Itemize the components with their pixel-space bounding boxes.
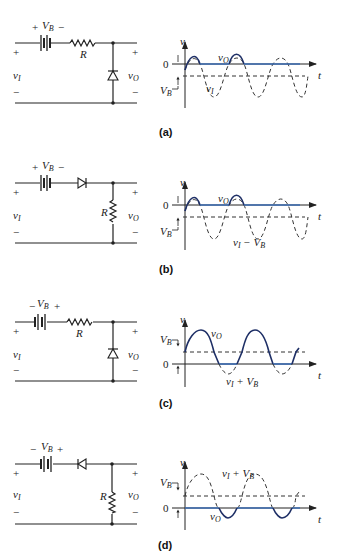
output-plus: +	[132, 46, 138, 58]
resistor-icon	[109, 492, 115, 513]
input-minus: −	[13, 86, 19, 98]
resistor-label: R	[75, 327, 83, 339]
output-curve-label: vO	[211, 327, 222, 341]
input-plus: +	[13, 325, 19, 337]
battery-label: VB	[42, 159, 54, 173]
battery-polarity-right: +	[54, 300, 60, 312]
vb-label: VB	[160, 333, 172, 347]
input-plus: +	[13, 467, 19, 479]
input-label: vI	[13, 209, 21, 223]
x-axis-label: t	[318, 210, 322, 222]
waveform-c: v t 0 VB vO vI + VB	[160, 313, 322, 389]
circuit-c: − VB + R + vI − + vO −	[13, 297, 139, 383]
output-label: vO	[128, 69, 139, 83]
output-minus: −	[132, 86, 138, 98]
output-curve-label: vO	[218, 192, 229, 206]
caption-a: (a)	[159, 126, 173, 138]
vb-label: VB	[160, 476, 172, 490]
output-curve-label: vO	[210, 510, 221, 524]
y-axis-label: v	[180, 35, 185, 47]
x-axis-label: t	[318, 513, 322, 525]
caption-b: (b)	[159, 263, 173, 275]
caption-c: (c)	[159, 397, 173, 409]
battery-icon	[41, 35, 50, 51]
circuit-a: + VB − R + vI − + vO −	[13, 19, 139, 105]
battery-polarity-right: +	[57, 443, 63, 455]
input-curve-label: vI	[206, 82, 214, 96]
output-label: vO	[128, 488, 139, 502]
vb-label: VB	[160, 84, 172, 98]
output-minus: −	[132, 506, 138, 518]
battery-icon	[35, 314, 45, 330]
resistor-icon	[70, 40, 95, 46]
battery-polarity-left: +	[32, 161, 38, 173]
x-axis-label: t	[318, 69, 322, 81]
input-label: vI	[13, 488, 21, 502]
battery-polarity-left: +	[32, 21, 38, 33]
circuit-d: − VB + R + vI − + vO −	[13, 440, 139, 526]
battery-polarity-left: −	[29, 300, 35, 312]
battery-icon	[41, 175, 50, 191]
waveform-b: v t 0 VB vO vI − VB	[160, 176, 322, 250]
diode-icon	[78, 178, 86, 188]
input-minus: −	[13, 226, 19, 238]
waveform-a: v t 0 VB vO vI	[160, 35, 322, 108]
panel-a: + VB − R + vI − + vO − v t 0 VB	[13, 19, 322, 138]
output-plus: +	[132, 467, 138, 479]
battery-label: VB	[42, 19, 54, 33]
input-plus: +	[13, 186, 19, 198]
battery-polarity-right: −	[58, 161, 64, 173]
battery-label: VB	[41, 440, 53, 454]
zero-label: 0	[163, 358, 169, 370]
diode-icon	[78, 459, 86, 469]
output-minus: −	[132, 364, 138, 376]
resistor-label: R	[79, 48, 87, 60]
panel-c: − VB + R + vI − + vO − v t 0 VB	[13, 297, 322, 409]
resistor-icon	[110, 200, 116, 222]
input-curve-label: vI − VB	[233, 236, 265, 250]
diode-icon	[108, 349, 118, 358]
waveform-d: v t 0 VB vO vI + VB	[160, 456, 322, 530]
clamper-circuits-figure: + VB − R + vI − + vO − v t 0 VB	[0, 0, 354, 557]
x-axis-label: t	[318, 369, 322, 381]
diode-icon	[108, 71, 118, 80]
y-axis-label: v	[180, 313, 185, 325]
input-minus: −	[13, 506, 19, 518]
panel-d: − VB + R + vI − + vO − v t 0 VB	[13, 440, 322, 551]
zero-label: 0	[163, 58, 169, 70]
resistor-label: R	[99, 490, 107, 502]
panel-b: + VB − R + vI − + vO − v t 0 VB vO vI	[13, 159, 322, 275]
output-curve-label: vO	[218, 51, 229, 65]
resistor-label: R	[100, 206, 108, 218]
zero-label: 0	[163, 502, 169, 514]
output-plus: +	[132, 186, 138, 198]
y-axis-label: v	[180, 456, 185, 468]
input-curve-label: vI + VB	[222, 467, 254, 481]
zero-label: 0	[163, 199, 169, 211]
battery-icon	[41, 456, 51, 472]
output-label: vO	[128, 348, 139, 362]
input-label: vI	[13, 69, 21, 83]
output-plus: +	[132, 325, 138, 337]
input-plus: +	[13, 46, 19, 58]
vb-label: VB	[160, 225, 172, 239]
input-label: vI	[13, 348, 21, 362]
output-label: vO	[128, 209, 139, 223]
caption-d: (d)	[158, 539, 172, 551]
circuit-b: + VB − R + vI − + vO −	[13, 159, 139, 245]
input-minus: −	[13, 364, 19, 376]
y-axis-label: v	[180, 176, 185, 188]
resistor-icon	[67, 319, 92, 325]
input-curve-label: vI + VB	[226, 375, 258, 389]
battery-polarity-right: −	[58, 21, 64, 33]
output-minus: −	[132, 226, 138, 238]
battery-polarity-left: −	[30, 443, 36, 455]
battery-label: VB	[37, 297, 49, 311]
